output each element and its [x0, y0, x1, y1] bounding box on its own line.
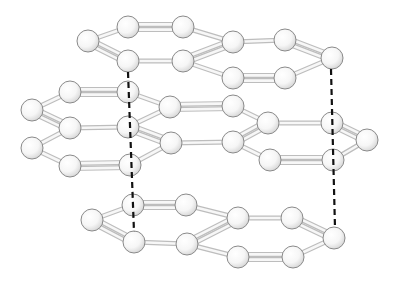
atom-m1	[59, 81, 81, 103]
atom-b3	[175, 194, 197, 216]
atom-b9	[282, 246, 304, 268]
atom-m12	[257, 112, 279, 134]
atom-m5	[117, 116, 139, 138]
atom-m8	[119, 154, 141, 176]
atom-t6	[117, 50, 139, 72]
molecular-diagram	[0, 0, 396, 285]
atom-b5	[176, 233, 198, 255]
atom-t9	[274, 67, 296, 89]
atom-t8	[321, 47, 343, 69]
atom-m7	[59, 155, 81, 177]
atom-t7	[274, 29, 296, 51]
atom-m11	[222, 95, 244, 117]
atom-t10	[222, 67, 244, 89]
atom-t5	[172, 50, 194, 72]
atom-b1	[81, 209, 103, 231]
atom-b7	[281, 207, 303, 229]
atom-m3	[21, 99, 43, 121]
atom-m6	[21, 137, 43, 159]
atom-m16	[356, 129, 378, 151]
atom-m10	[160, 132, 182, 154]
molecule-svg	[0, 0, 396, 285]
atom-m9	[159, 96, 181, 118]
atom-t2	[117, 16, 139, 38]
atom-t4	[222, 31, 244, 53]
atom-m4	[59, 117, 81, 139]
atom-t1	[77, 30, 99, 52]
atom-t3	[172, 16, 194, 38]
atom-b6	[123, 231, 145, 253]
atom-m13	[222, 131, 244, 153]
atom-b8	[323, 227, 345, 249]
atom-m14	[259, 149, 281, 171]
atom-b4	[227, 207, 249, 229]
atom-b10	[227, 246, 249, 268]
